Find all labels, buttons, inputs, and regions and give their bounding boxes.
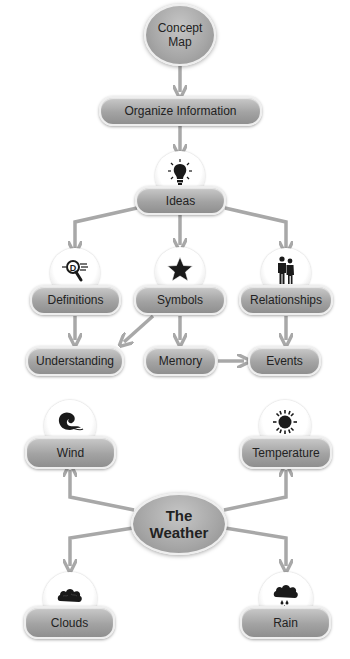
node-events[interactable]: Events (248, 346, 321, 376)
node-memory[interactable]: Memory (144, 346, 217, 376)
star-icon (165, 254, 195, 284)
node-symbols-label: Symbols (157, 293, 203, 307)
concept-map-diagram: Concept Map Organize Information Ideas D (0, 0, 350, 659)
edge-ideas-definitions (75, 208, 137, 248)
node-rain-label: Rain (273, 616, 298, 630)
node-the-weather[interactable]: The Weather (131, 493, 227, 555)
sun-icon (270, 408, 300, 438)
node-rain[interactable]: Rain (240, 606, 331, 639)
node-relationships-label: Relationships (250, 293, 322, 307)
couple-icon (271, 255, 301, 285)
node-concept-map[interactable]: Concept Map (144, 4, 216, 66)
lightbulb-icon (165, 158, 195, 188)
node-temperature-label: Temperature (252, 446, 319, 460)
edge-weather-wind (70, 470, 134, 510)
node-organize-information-label: Organize Information (124, 104, 236, 118)
edge-ideas-relationships (225, 208, 286, 248)
wind-icon (55, 408, 85, 438)
node-relationships[interactable]: Relationships (239, 285, 333, 315)
node-clouds-label: Clouds (51, 616, 88, 630)
node-events-label: Events (266, 354, 303, 368)
node-concept-map-line2: Map (168, 35, 191, 49)
node-temperature[interactable]: Temperature (240, 436, 332, 469)
edge-weather-temperature (224, 470, 286, 510)
node-wind[interactable]: Wind (25, 436, 116, 469)
node-definitions-label: Definitions (47, 293, 103, 307)
node-clouds[interactable]: Clouds (24, 606, 115, 639)
node-concept-map-line1: Concept (158, 21, 203, 35)
magnifier-d-icon: D (60, 255, 90, 285)
node-wind-label: Wind (57, 446, 84, 460)
edge-symbols-understanding (124, 316, 153, 342)
node-definitions[interactable]: Definitions (30, 285, 121, 315)
node-the-weather-line1: The (166, 507, 193, 524)
edge-weather-rain (225, 528, 286, 566)
node-understanding-label: Understanding (36, 354, 114, 368)
node-memory-label: Memory (159, 354, 202, 368)
edge-weather-clouds (70, 528, 133, 566)
node-ideas-label: Ideas (166, 194, 195, 208)
node-symbols[interactable]: Symbols (134, 285, 226, 315)
node-the-weather-line2: Weather (150, 524, 209, 541)
node-understanding[interactable]: Understanding (26, 346, 124, 376)
node-organize-information[interactable]: Organize Information (99, 96, 262, 126)
node-ideas[interactable]: Ideas (135, 186, 226, 215)
